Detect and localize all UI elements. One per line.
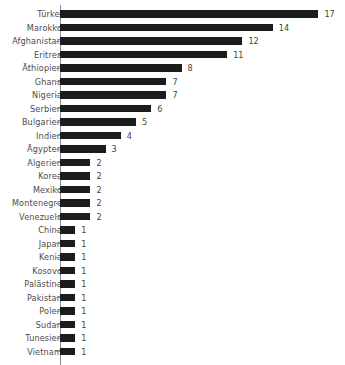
category-label: Bulgarien [6, 115, 62, 129]
bar-value-label: 6 [157, 102, 162, 116]
bar-row: Äthiopien8 [0, 61, 345, 75]
bar [60, 280, 75, 288]
category-label: Algerien [6, 156, 62, 170]
bar-row: Vietnam1 [0, 345, 345, 359]
category-label: Sudan [6, 318, 62, 332]
bar-value-label: 1 [81, 277, 86, 291]
bar [60, 213, 90, 221]
bar-row: Indien4 [0, 129, 345, 143]
bar [60, 118, 136, 126]
category-label: Vietnam [6, 345, 62, 359]
bar-row: Venezuela2 [0, 210, 345, 224]
bar-row: Palästina1 [0, 277, 345, 291]
bar-value-label: 3 [112, 142, 117, 156]
bar-row: Mexiko2 [0, 183, 345, 197]
bar-value-label: 2 [96, 196, 101, 210]
bar [60, 226, 75, 234]
bar [60, 24, 273, 32]
bar-value-label: 2 [96, 169, 101, 183]
bar-row: Sudan1 [0, 318, 345, 332]
bar-row: Nigeria7 [0, 88, 345, 102]
bar-row: Kosovo1 [0, 264, 345, 278]
bar-value-label: 4 [127, 129, 132, 143]
bar-row: Eritrea11 [0, 48, 345, 62]
category-label: Korea [6, 169, 62, 183]
bar-value-label: 1 [81, 223, 86, 237]
category-label: Serbien [6, 102, 62, 116]
category-label: Kosovo [6, 264, 62, 278]
category-label: Ghana [6, 75, 62, 89]
bar-value-label: 17 [324, 7, 334, 21]
category-label: Äthiopien [6, 61, 62, 75]
bar [60, 10, 318, 18]
category-label: Indien [6, 129, 62, 143]
bar [60, 334, 75, 342]
bar-row: Pakistan1 [0, 291, 345, 305]
category-label: Venezuela [6, 210, 62, 224]
bar [60, 186, 90, 194]
bar-value-label: 1 [81, 318, 86, 332]
bar-row: Serbien6 [0, 102, 345, 116]
category-label: Palästina [6, 277, 62, 291]
category-label: Nigeria [6, 88, 62, 102]
bar [60, 172, 90, 180]
category-label: Polen [6, 304, 62, 318]
bar-value-label: 1 [81, 304, 86, 318]
bar [60, 159, 90, 167]
bar-row: Korea2 [0, 169, 345, 183]
bar [60, 78, 166, 86]
bar [60, 64, 182, 72]
category-label: Kenia [6, 250, 62, 264]
category-label: Marokko [6, 21, 62, 35]
bar [60, 91, 166, 99]
bar-value-label: 5 [142, 115, 147, 129]
bar-value-label: 7 [172, 75, 177, 89]
category-label: China [6, 223, 62, 237]
bar-row: Bulgarien5 [0, 115, 345, 129]
bar-row: Ägypten3 [0, 142, 345, 156]
category-label: Pakistan [6, 291, 62, 305]
bar [60, 240, 75, 248]
bar [60, 307, 75, 315]
bar [60, 132, 121, 140]
category-label: Afghanistan [6, 34, 62, 48]
bar-row: Polen1 [0, 304, 345, 318]
category-label: Mexiko [6, 183, 62, 197]
bar-value-label: 1 [81, 291, 86, 305]
bar-value-label: 2 [96, 183, 101, 197]
category-label: Ägypten [6, 142, 62, 156]
bar-value-label: 8 [188, 61, 193, 75]
bar-value-label: 1 [81, 331, 86, 345]
bar-value-label: 14 [279, 21, 289, 35]
category-label: Türkei [6, 7, 62, 21]
bar-value-label: 2 [96, 210, 101, 224]
bar [60, 105, 151, 113]
category-label: Japan [6, 237, 62, 251]
bar [60, 348, 75, 356]
bar-value-label: 1 [81, 250, 86, 264]
bar-value-label: 7 [172, 88, 177, 102]
bar-row: Ghana7 [0, 75, 345, 89]
bar [60, 253, 75, 261]
bar-value-label: 11 [233, 48, 243, 62]
bar [60, 51, 227, 59]
bar [60, 145, 106, 153]
bar [60, 321, 75, 329]
category-label: Eritrea [6, 48, 62, 62]
bar-value-label: 12 [248, 34, 258, 48]
bar-row: Kenia1 [0, 250, 345, 264]
bar-row: China1 [0, 223, 345, 237]
bar-row: Tunesien1 [0, 331, 345, 345]
bar [60, 199, 90, 207]
bar-row: Türkei17 [0, 7, 345, 21]
bar-row: Marokko14 [0, 21, 345, 35]
bar-value-label: 1 [81, 237, 86, 251]
category-label: Tunesien [6, 331, 62, 345]
bar-row: Algerien2 [0, 156, 345, 170]
category-label: Montenegro [6, 196, 62, 210]
bar [60, 37, 242, 45]
bar-row: Montenegro2 [0, 196, 345, 210]
bar-value-label: 2 [96, 156, 101, 170]
bar [60, 267, 75, 275]
